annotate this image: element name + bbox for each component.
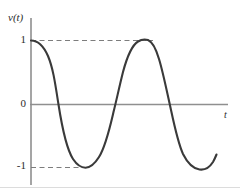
x-axis-label: t [224, 110, 227, 120]
plot-canvas [0, 0, 240, 190]
y-tick-label-negative-one: -1 [8, 160, 26, 171]
y-tick-label-positive-one: 1 [14, 34, 26, 45]
waveform-figure: v(t) t 1 0 -1 [0, 0, 240, 190]
y-tick-label-zero: 0 [14, 98, 26, 109]
y-axis-label: v(t) [8, 12, 23, 23]
